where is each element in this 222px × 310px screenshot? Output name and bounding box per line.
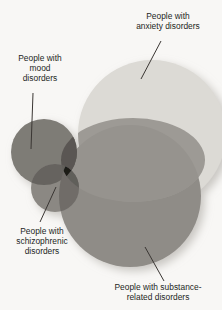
label-substance-related-disorders: People with substance- related disorders: [96, 282, 220, 302]
label-mood-disorders: People with mood disorders: [4, 53, 76, 84]
label-anxiety-disorders: People with anxiety disorders: [118, 11, 218, 31]
label-schizophrenic-disorders: People with schizophrenic disorders: [0, 226, 84, 257]
venn-diagram-canvas: [0, 0, 222, 310]
venn-diagram-figure: People with anxiety disorders People wit…: [0, 0, 222, 310]
